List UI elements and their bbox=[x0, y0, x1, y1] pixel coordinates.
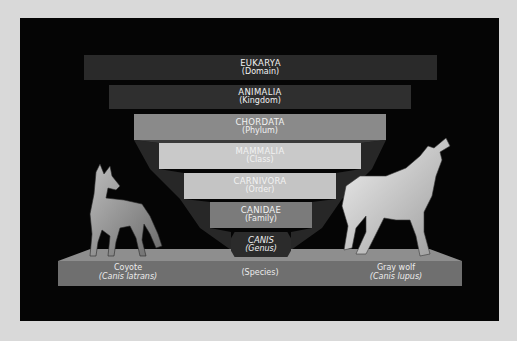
rank-level: (Family) bbox=[245, 215, 277, 223]
rank-bar-order: CARNIVORA (Order) bbox=[184, 173, 336, 199]
coyote-illustration bbox=[86, 164, 170, 260]
wolf-scientific-name: (Canis lupus) bbox=[356, 273, 436, 282]
rank-level: (Kingdom) bbox=[239, 97, 281, 105]
species-wolf-label: Gray wolf (Canis lupus) bbox=[356, 264, 436, 282]
species-coyote-label: Coyote (Canis latrans) bbox=[88, 264, 168, 282]
rank-bar-class: MAMMALIA (Class) bbox=[159, 143, 361, 169]
rank-bar-domain: EUKARYA (Domain) bbox=[84, 55, 437, 80]
rank-bar-kingdom: ANIMALIA (Kingdom) bbox=[109, 85, 411, 109]
rank-bar-family: CANIDAE (Family) bbox=[210, 202, 312, 228]
rank-bar-genus: CANIS (Genus) bbox=[231, 232, 291, 257]
rank-level: (Domain) bbox=[242, 68, 279, 76]
species-base: Coyote (Canis latrans) (Species) Gray wo… bbox=[58, 261, 462, 286]
coyote-scientific-name: (Canis latrans) bbox=[88, 273, 168, 282]
rank-level: (Order) bbox=[246, 186, 275, 194]
rank-level: (Phylum) bbox=[242, 127, 278, 135]
howling-wolf-illustration bbox=[336, 136, 456, 262]
rank-level: (Genus) bbox=[245, 245, 277, 253]
species-level-label: (Species) bbox=[220, 269, 300, 278]
rank-level: (Class) bbox=[246, 156, 273, 164]
